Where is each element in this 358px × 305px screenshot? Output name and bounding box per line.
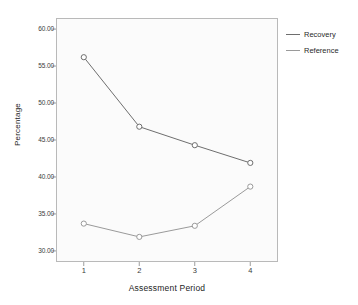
y-tick-label: 55.00: [20, 62, 54, 69]
data-point-marker: [248, 160, 253, 165]
line-chart: 60.0055.0050.0045.0040.0035.0030.00 1234…: [0, 0, 358, 305]
data-point-marker: [81, 221, 86, 226]
axis-tick-marks: [52, 29, 250, 266]
legend-label: Recovery: [304, 30, 336, 39]
legend-label: Reference: [304, 46, 339, 55]
x-axis-title: Assessment Period: [56, 283, 278, 293]
legend-line-swatch: [286, 34, 300, 35]
data-point-marker: [192, 143, 197, 148]
legend-item[interactable]: Recovery: [286, 28, 358, 41]
legend-line-swatch: [286, 50, 300, 51]
data-point-marker: [137, 124, 142, 129]
data-point-marker: [81, 55, 86, 60]
y-tick-label: 35.00: [20, 210, 54, 217]
data-point-marker: [192, 223, 197, 228]
chart-legend: RecoveryReference: [286, 28, 358, 60]
data-point-marker: [248, 184, 253, 189]
legend-item[interactable]: Reference: [286, 44, 358, 57]
y-axis-title: Percentage: [13, 80, 22, 170]
data-point-marker: [137, 234, 142, 239]
y-tick-label: 50.00: [20, 99, 54, 106]
y-tick-label: 40.00: [20, 173, 54, 180]
x-tick-label: 4: [240, 266, 260, 275]
y-tick-label: 45.00: [20, 136, 54, 143]
x-tick-label: 3: [185, 266, 205, 275]
y-tick-label: 60.00: [20, 25, 54, 32]
series-line: [84, 57, 251, 163]
data-series-layer: [81, 55, 253, 240]
y-tick-label: 30.00: [20, 247, 54, 254]
x-tick-label: 1: [74, 266, 94, 275]
x-tick-label: 2: [129, 266, 149, 275]
series-line: [84, 187, 251, 237]
